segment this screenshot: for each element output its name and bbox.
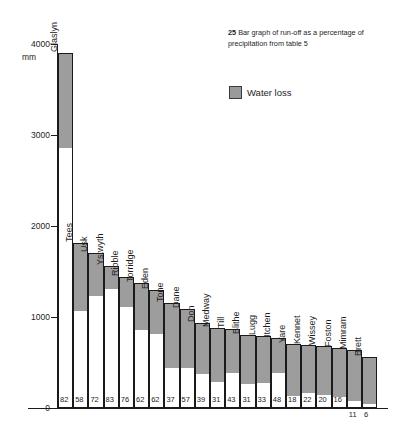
- bar-segment-water-loss: [241, 336, 254, 386]
- value-cell-divider: [332, 394, 333, 408]
- bar-label-river: Kennet: [293, 316, 302, 345]
- y-axis-tick-label: 4000: [14, 39, 50, 49]
- value-cell-divider: [88, 394, 89, 408]
- value-cell-divider: [240, 394, 241, 408]
- bar-segment-water-loss: [196, 324, 209, 376]
- x-axis-line: [28, 408, 388, 409]
- bar-label-river: Don: [187, 305, 196, 322]
- bar-segment-runoff: [74, 311, 87, 407]
- bar-segment-water-loss: [120, 278, 133, 309]
- bar-segment-runoff: [120, 307, 133, 407]
- figure-bar-graph: 25 Bar graph of run-off as a percentage …: [0, 0, 405, 440]
- bar-label-river: Itchen: [263, 312, 272, 337]
- bar-label-river: Torridge: [126, 250, 135, 283]
- value-cell-divider: [104, 394, 105, 408]
- value-cell-divider: [180, 394, 181, 408]
- bar-segment-water-loss: [348, 351, 361, 403]
- bar-segment-water-loss: [287, 345, 300, 397]
- y-axis-zero-label: 0: [14, 403, 50, 413]
- bar: Brett: [362, 357, 377, 408]
- bar: Ribble: [119, 277, 134, 408]
- value-cell-divider: [73, 394, 74, 408]
- value-cell-divider: [149, 394, 150, 408]
- bar-label-river: Tees: [65, 223, 74, 242]
- bar-segment-runoff: [59, 148, 72, 407]
- y-axis-tick-mark: [51, 317, 58, 318]
- value-cell-divider: [210, 394, 211, 408]
- bar-label-river: Dane: [172, 286, 181, 308]
- value-cell-divider: [286, 394, 287, 408]
- bar-runoff-percent-label: 58: [75, 396, 83, 404]
- bar-segment-runoff: [363, 404, 376, 407]
- bar-label-river: Lugg: [248, 315, 257, 335]
- bar-runoff-percent-label: 43: [227, 396, 235, 404]
- bar-label-river: Blithe: [232, 312, 241, 335]
- bar: Mimram: [347, 350, 362, 408]
- plot-area: GlaslynTeesUskYstwythRibbleTorridgeEdenT…: [58, 44, 388, 408]
- bar-label-river: Glaslyn: [50, 22, 59, 52]
- value-cell-divider: [362, 394, 363, 408]
- bar-segment-runoff: [348, 401, 361, 407]
- bar-runoff-percent-label: 6: [364, 411, 368, 419]
- value-cell-divider: [195, 394, 196, 408]
- value-cell-divider: [271, 394, 272, 408]
- bar-segment-water-loss: [211, 329, 224, 384]
- bar: Dane: [180, 309, 195, 408]
- bar-runoff-percent-label: 62: [136, 396, 144, 404]
- bar-segment-water-loss: [59, 54, 72, 150]
- bar-segment-runoff: [105, 289, 118, 407]
- value-cell-divider: [134, 394, 135, 408]
- value-cell-divider: [58, 394, 59, 408]
- value-cell-divider: [316, 394, 317, 408]
- bar-runoff-percent-label: 20: [318, 396, 326, 404]
- value-cell-divider: [225, 394, 226, 408]
- bar-label-river: Usk: [80, 237, 89, 253]
- bar-runoff-percent-label: 72: [90, 396, 98, 404]
- value-cell-divider: [119, 394, 120, 408]
- bar-label-river: Ribble: [111, 250, 120, 276]
- bar-runoff-percent-label: 37: [166, 396, 174, 404]
- bar-label-river: Foston: [324, 319, 333, 347]
- bar: Ystwyth: [104, 266, 119, 408]
- bar-label-river: Eden: [141, 268, 150, 289]
- bar-segment-water-loss: [226, 330, 239, 375]
- bar-segment-water-loss: [257, 337, 270, 385]
- y-axis-unit-label: mm: [22, 52, 36, 62]
- bar-runoff-percent-label: 39: [197, 396, 205, 404]
- bar-segment-water-loss: [135, 284, 148, 331]
- bar-segment-water-loss: [363, 358, 376, 406]
- bar-runoff-percent-label: 48: [273, 396, 281, 404]
- bar-runoff-percent-label: 16: [334, 396, 342, 404]
- value-cell-divider: [256, 394, 257, 408]
- bar-runoff-percent-label: 76: [121, 396, 129, 404]
- bar-runoff-percent-label: 57: [182, 396, 190, 404]
- bar-runoff-percent-label: 31: [212, 396, 220, 404]
- bar: Torridge: [134, 283, 149, 408]
- bar: Tees: [73, 243, 88, 408]
- bar-label-river: Medway: [202, 293, 211, 327]
- y-axis-tick-mark: [51, 226, 58, 227]
- bar-label-river: Brett: [354, 337, 363, 356]
- bar-label-river: Wissey: [308, 316, 317, 345]
- bar-segment-water-loss: [317, 347, 330, 397]
- bar-label-river: Till: [217, 317, 226, 328]
- y-axis-tick-label: 2000: [14, 221, 50, 231]
- value-cell-divider: [164, 394, 165, 408]
- value-cell-divider: [301, 394, 302, 408]
- y-axis-tick-mark: [51, 135, 58, 136]
- bar-segment-water-loss: [333, 349, 346, 399]
- bar-segment-water-loss: [272, 339, 285, 375]
- bar-runoff-percent-label: 83: [106, 396, 114, 404]
- bar-label-river: Tone: [156, 283, 165, 303]
- bar-label-river: Mimram: [339, 316, 348, 349]
- bar: Eden: [149, 290, 164, 408]
- bar-runoff-percent-label: 62: [151, 396, 159, 404]
- y-axis-tick-label: 1000: [14, 312, 50, 322]
- bar-runoff-percent-label: 11: [349, 411, 357, 419]
- y-axis-tick-label: 3000: [14, 130, 50, 140]
- bar-segment-water-loss: [165, 304, 178, 370]
- bar-label-river: Ystwyth: [96, 234, 105, 266]
- bar-runoff-percent-label: 33: [258, 396, 266, 404]
- bar-segment-water-loss: [74, 244, 87, 313]
- bar-runoff-percent-label: 22: [303, 396, 311, 404]
